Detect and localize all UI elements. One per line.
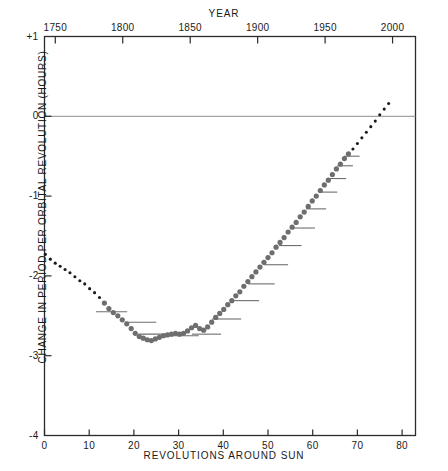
x-tick-label: 70	[337, 440, 377, 451]
data-point	[302, 209, 307, 214]
data-point	[221, 307, 226, 312]
data-point	[290, 225, 295, 230]
data-point	[378, 113, 381, 116]
y-tick-label: 0	[9, 110, 39, 121]
top-x-tick-label: 1800	[101, 22, 145, 33]
data-point	[68, 271, 71, 274]
y-axis-title: CHANGE IN PERIOD PER ORBITAL REVOLUTION …	[37, 104, 48, 364]
data-point	[314, 194, 319, 199]
data-point	[88, 287, 91, 290]
data-point	[54, 262, 57, 265]
data-point	[233, 293, 238, 298]
data-point	[261, 260, 266, 265]
y-tick-label: -1	[9, 190, 39, 201]
series-predicted-late	[351, 102, 390, 151]
data-point	[93, 291, 96, 294]
data-point	[213, 315, 218, 320]
data-point	[98, 296, 101, 299]
top-x-tick-label: 1750	[33, 22, 77, 33]
plot-frame	[45, 37, 416, 436]
data-point	[257, 265, 262, 270]
data-point	[73, 275, 76, 278]
data-point	[351, 147, 354, 150]
data-point	[298, 214, 303, 219]
data-point	[269, 250, 274, 255]
x-axis-title: REVOLUTIONS AROUND SUN	[0, 450, 448, 461]
y-tick-label: -3	[9, 350, 39, 361]
top-x-tick-label: 1950	[303, 22, 347, 33]
data-point	[111, 310, 116, 315]
data-point	[49, 258, 52, 261]
data-point	[360, 136, 363, 139]
data-point	[318, 188, 323, 193]
data-point	[245, 279, 250, 284]
data-point	[217, 311, 222, 316]
top-axis-title: YEAR	[0, 8, 448, 19]
data-point	[59, 265, 62, 268]
data-point	[356, 142, 359, 145]
data-point	[277, 240, 282, 245]
data-point	[383, 108, 386, 111]
data-point	[342, 156, 347, 161]
data-point	[124, 321, 129, 326]
x-tick-label: 10	[69, 440, 109, 451]
y-tick-label: -4	[9, 430, 39, 441]
data-point	[209, 320, 214, 325]
data-point	[273, 245, 278, 250]
data-point	[205, 324, 210, 329]
data-point	[102, 300, 107, 305]
data-point	[241, 284, 246, 289]
data-point	[225, 302, 230, 307]
data-point	[229, 298, 234, 303]
data-point	[338, 162, 343, 167]
data-point	[64, 268, 67, 271]
data-point	[369, 125, 372, 128]
data-point	[253, 269, 258, 274]
data-point	[237, 289, 242, 294]
x-tick-label: 30	[159, 440, 199, 451]
data-point	[306, 204, 311, 209]
top-x-tick-label: 1900	[236, 22, 280, 33]
data-point	[265, 255, 270, 260]
top-x-tick-label: 1850	[168, 22, 212, 33]
y-tick-label: +1	[9, 31, 39, 42]
data-point	[106, 306, 111, 311]
data-point	[374, 120, 377, 123]
data-point	[83, 282, 86, 285]
top-x-tick-label: 2000	[371, 22, 415, 33]
plot-canvas	[0, 0, 448, 471]
x-tick-label: 60	[293, 440, 333, 451]
data-point	[78, 279, 81, 282]
x-tick-label: 50	[248, 440, 288, 451]
data-point	[365, 131, 368, 134]
y-tick-label: -2	[9, 270, 39, 281]
x-tick-label: 20	[114, 440, 154, 451]
series-computed-early	[44, 253, 101, 299]
data-point	[286, 229, 291, 234]
data-point	[249, 274, 254, 279]
data-point	[120, 317, 125, 322]
data-point	[387, 102, 390, 105]
data-point	[334, 166, 339, 171]
x-tick-label: 0	[25, 440, 65, 451]
data-point	[322, 182, 327, 187]
data-point	[115, 313, 120, 318]
data-point	[346, 151, 351, 156]
x-tick-label: 80	[382, 440, 422, 451]
data-point	[330, 172, 335, 177]
chart-figure: YEAR REVOLUTIONS AROUND SUN CHANGE IN PE…	[0, 0, 448, 471]
data-point	[294, 220, 299, 225]
data-point	[326, 178, 331, 183]
data-point	[281, 235, 286, 240]
x-tick-label: 40	[203, 440, 243, 451]
series-observed-gray	[102, 151, 351, 343]
data-point	[310, 198, 315, 203]
data-point	[129, 326, 134, 331]
